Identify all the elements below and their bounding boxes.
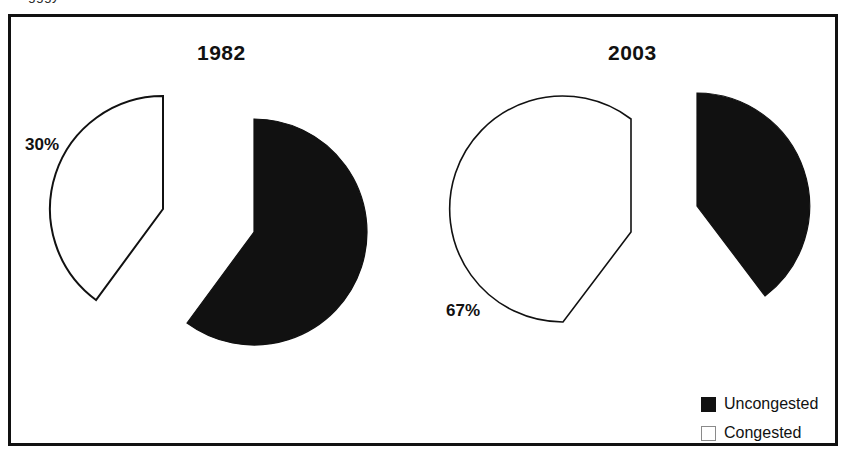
legend-item-congested: Congested [701, 424, 818, 442]
legend-item-uncongested: Uncongested [701, 395, 818, 413]
pie-chart-2003 [11, 17, 835, 443]
pie-label-2003-uncongested: 33% [744, 153, 778, 173]
black-square-icon [701, 397, 716, 412]
white-square-icon [701, 426, 716, 441]
pie-label-2003-congested: 67% [446, 301, 480, 321]
legend: Uncongested Congested [701, 395, 818, 453]
slice-2003-uncongested [697, 93, 810, 296]
clipped-caption-strip: gggy [0, 0, 853, 12]
legend-label-congested: Congested [724, 424, 801, 442]
legend-label-uncongested: Uncongested [724, 395, 818, 413]
clipped-caption-text: gggy [28, 0, 59, 3]
slice-2003-congested [450, 96, 631, 322]
figure-frame: 1982 30% 70% 2003 33% 67% Uncongested Co… [8, 14, 838, 446]
